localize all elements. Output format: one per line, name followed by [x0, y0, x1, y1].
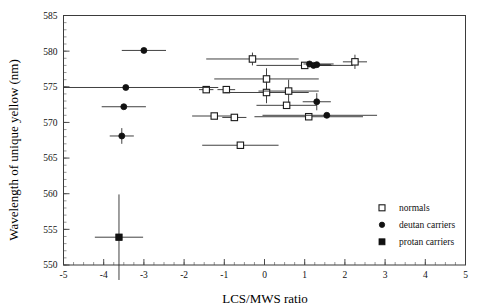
y-tick-label: 555: [43, 225, 58, 235]
marker-open-square: [223, 86, 229, 92]
marker-open-square: [211, 113, 217, 119]
marker-open-square: [263, 76, 269, 82]
marker-open-square: [237, 142, 243, 148]
marker-open-square: [231, 114, 237, 120]
y-tick-label: 570: [43, 118, 58, 128]
scatter-plot-figure: Wavelength of unique yellow (nm) LCS/MWS…: [0, 0, 484, 305]
x-tick-label: 5: [463, 270, 468, 280]
x-axis-title-text: LCS/MWS ratio: [222, 291, 308, 305]
unique-yellow-scatter-chart: Wavelength of unique yellow (nm) LCS/MWS…: [0, 0, 484, 305]
marker-open-square: [249, 56, 255, 62]
marker-filled-square: [116, 234, 122, 240]
marker-filled-circle: [121, 104, 127, 110]
y-axis-title: Wavelength of unique yellow (nm): [6, 59, 21, 241]
legend-label: protan carriers: [399, 237, 454, 247]
x-tick-label: 3: [383, 270, 388, 280]
y-tick-label: 585: [43, 11, 58, 21]
legend-marker-filled-square: [379, 239, 385, 245]
marker-filled-circle: [119, 133, 125, 139]
x-tick-label: 2: [343, 270, 348, 280]
y-tick-label: 580: [43, 47, 58, 57]
x-tick-label: 1: [302, 270, 307, 280]
x-tick-label: 4: [423, 270, 428, 280]
chart-background: [0, 0, 484, 305]
x-tick-label: 0: [262, 270, 267, 280]
marker-filled-circle: [123, 84, 129, 90]
x-tick-label: -5: [60, 270, 68, 280]
marker-open-square: [263, 89, 269, 95]
marker-filled-circle: [314, 99, 320, 105]
legend-label: normals: [399, 203, 430, 213]
marker-filled-circle: [141, 47, 147, 53]
x-tick-label: -3: [140, 270, 148, 280]
marker-filled-circle: [324, 112, 330, 118]
marker-open-square: [306, 114, 312, 120]
marker-open-square: [352, 59, 358, 65]
x-tick-label: -2: [180, 270, 188, 280]
y-axis-title-text: Wavelength of unique yellow (nm): [6, 59, 21, 241]
x-tick-label: -4: [100, 270, 108, 280]
y-tick-label: 550: [43, 260, 58, 270]
y-tick-label: 565: [43, 153, 58, 163]
marker-open-square: [283, 102, 289, 108]
x-axis-title: LCS/MWS ratio: [222, 291, 308, 305]
y-tick-label: 560: [43, 189, 58, 199]
marker-filled-circle: [314, 62, 320, 68]
x-tick-label: -1: [220, 270, 228, 280]
y-tick-label: 575: [43, 82, 58, 92]
legend-marker-open-square: [379, 205, 385, 211]
marker-open-square: [285, 88, 291, 94]
legend-marker-filled-circle: [379, 222, 384, 227]
legend-label: deutan carriers: [399, 220, 455, 230]
